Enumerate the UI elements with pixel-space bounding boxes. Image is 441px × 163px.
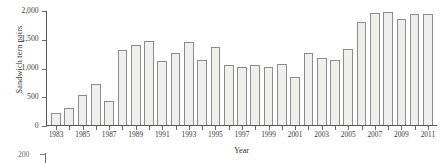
x-axis-tick-slot bbox=[275, 126, 288, 130]
bar-slot bbox=[328, 11, 341, 125]
bar bbox=[104, 101, 114, 125]
x-axis-tick-label: 2009 bbox=[394, 130, 409, 139]
x-axis-tick bbox=[255, 126, 256, 130]
x-axis-tick-slot: 2003 bbox=[315, 126, 328, 130]
bar-slot bbox=[408, 11, 421, 125]
bar bbox=[184, 42, 194, 125]
x-axis-tick-slot bbox=[408, 126, 421, 130]
bar bbox=[304, 53, 314, 125]
bar bbox=[51, 113, 61, 124]
bar bbox=[131, 45, 141, 125]
x-axis-tick bbox=[388, 126, 389, 130]
x-axis-tick-label: 1983 bbox=[49, 130, 64, 139]
bar bbox=[171, 53, 181, 125]
bar-slot bbox=[76, 11, 89, 125]
x-axis-tick bbox=[202, 126, 203, 130]
bar bbox=[330, 60, 340, 125]
bar-slot bbox=[275, 11, 288, 125]
x-axis-tick-slot bbox=[89, 126, 102, 130]
bar-slot bbox=[129, 11, 142, 125]
x-axis-tick-slot: 2007 bbox=[368, 126, 381, 130]
bar bbox=[290, 77, 300, 125]
bar bbox=[264, 67, 274, 125]
bar bbox=[91, 84, 101, 124]
bar-slot bbox=[142, 11, 155, 125]
x-axis-tick-label: 2001 bbox=[288, 130, 303, 139]
bar bbox=[224, 65, 234, 125]
bar-series bbox=[47, 11, 436, 125]
x-axis-tick-label: 1997 bbox=[235, 130, 250, 139]
x-axis-ticks: 1983198519871989199119931995199719992001… bbox=[47, 126, 436, 130]
bar-slot bbox=[169, 11, 182, 125]
x-axis-tick bbox=[69, 126, 70, 130]
x-axis-tick-slot: 1985 bbox=[76, 126, 89, 130]
y-axis-tick: 0 bbox=[42, 126, 47, 127]
bar-slot bbox=[222, 11, 235, 125]
x-axis-tick-label: 1991 bbox=[155, 130, 170, 139]
x-axis-tick bbox=[96, 126, 97, 130]
x-axis-tick-slot: 2005 bbox=[342, 126, 355, 130]
bar-slot bbox=[89, 11, 102, 125]
plot-area: 2,0001,5001,0005000 19831985198719891991… bbox=[46, 11, 437, 126]
next-figure-axis-stub bbox=[45, 153, 46, 163]
x-axis-tick-slot: 1991 bbox=[156, 126, 169, 130]
bar bbox=[237, 67, 247, 125]
bar bbox=[397, 19, 407, 125]
x-axis-tick-slot bbox=[328, 126, 341, 130]
bar bbox=[157, 61, 167, 125]
x-axis-tick-label: 2005 bbox=[341, 130, 356, 139]
x-axis-tick-slot: 1995 bbox=[209, 126, 222, 130]
x-axis-tick bbox=[415, 126, 416, 130]
bar-slot bbox=[302, 11, 315, 125]
y-axis-tick-label: 1,000 bbox=[21, 63, 38, 72]
x-axis-tick-slot: 1987 bbox=[103, 126, 116, 130]
next-figure-tick-label: 200 bbox=[18, 150, 29, 159]
bar-slot bbox=[288, 11, 301, 125]
bar-slot bbox=[209, 11, 222, 125]
x-axis-tick-slot: 2011 bbox=[421, 126, 434, 130]
x-axis-tick-slot: 1997 bbox=[235, 126, 248, 130]
bar bbox=[357, 22, 367, 125]
x-axis-tick-label: 1995 bbox=[208, 130, 223, 139]
y-axis-tick: 1,000 bbox=[42, 69, 47, 70]
y-axis-tick: 2,000 bbox=[42, 11, 47, 12]
x-axis-tick-slot bbox=[222, 126, 235, 130]
bar bbox=[64, 108, 74, 125]
bar-slot bbox=[421, 11, 434, 125]
bar-slot bbox=[355, 11, 368, 125]
x-axis-tick-slot bbox=[142, 126, 155, 130]
x-axis-tick-slot bbox=[116, 126, 129, 130]
x-axis-tick-slot bbox=[169, 126, 182, 130]
x-axis-tick-label: 2007 bbox=[367, 130, 382, 139]
bar bbox=[317, 58, 327, 125]
bar bbox=[118, 50, 128, 125]
x-axis-tick bbox=[282, 126, 283, 130]
bar-slot bbox=[156, 11, 169, 125]
bar bbox=[197, 60, 207, 125]
x-axis-tick-slot bbox=[355, 126, 368, 130]
x-axis-tick bbox=[308, 126, 309, 130]
y-axis-tick-label: 1,500 bbox=[21, 34, 38, 43]
x-axis-tick-slot: 1993 bbox=[182, 126, 195, 130]
bar bbox=[250, 65, 260, 125]
x-axis-tick-slot bbox=[195, 126, 208, 130]
bar-slot bbox=[235, 11, 248, 125]
x-axis-tick-label: 1985 bbox=[75, 130, 90, 139]
bar-slot bbox=[249, 11, 262, 125]
bar-slot bbox=[63, 11, 76, 125]
x-axis-tick bbox=[122, 126, 123, 130]
y-axis-tick-label: 500 bbox=[27, 92, 38, 101]
bar bbox=[383, 12, 393, 125]
bar bbox=[343, 49, 353, 124]
bar-slot bbox=[49, 11, 62, 125]
x-axis-tick-slot bbox=[63, 126, 76, 130]
x-axis-tick bbox=[335, 126, 336, 130]
y-axis-tick: 1,500 bbox=[42, 40, 47, 41]
cropped-next-figure: 200 bbox=[0, 150, 441, 163]
bar bbox=[423, 14, 433, 125]
bar-slot bbox=[368, 11, 381, 125]
x-axis-tick-label: 1993 bbox=[181, 130, 196, 139]
bar-slot bbox=[103, 11, 116, 125]
x-axis-tick-label: 1987 bbox=[102, 130, 117, 139]
x-axis-tick-slot: 2001 bbox=[288, 126, 301, 130]
